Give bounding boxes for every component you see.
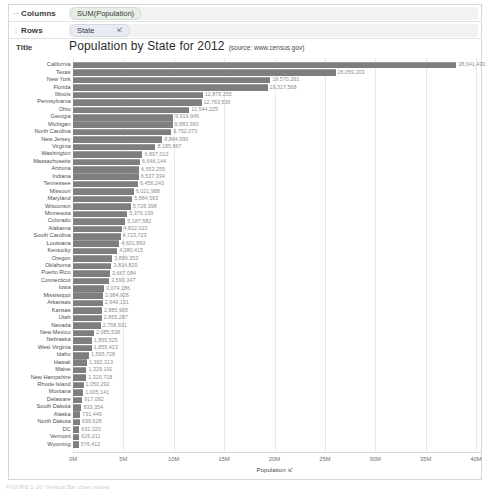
row-label-nevada[interactable]: Nevada xyxy=(9,322,73,329)
row-label-alabama[interactable]: Alabama xyxy=(9,225,73,232)
table-row[interactable]: South Dakota833,354 xyxy=(9,403,481,410)
rows-shelf-dropzone[interactable]: State ⇲ xyxy=(69,24,478,37)
title-shelf[interactable]: Title Population by State for 2012 (sour… xyxy=(9,39,481,58)
row-label-south-dakota[interactable]: South Dakota xyxy=(9,403,73,410)
table-row[interactable]: Massachusetts6,646,144 xyxy=(9,158,481,165)
row-label-minnesota[interactable]: Minnesota xyxy=(9,210,73,217)
sort-descending-icon[interactable]: ⇲ xyxy=(288,466,293,473)
row-label-alaska[interactable]: Alaska xyxy=(9,411,73,418)
row-label-maine[interactable]: Maine xyxy=(9,366,73,373)
row-label-hawaii[interactable]: Hawaii xyxy=(9,359,73,366)
table-row[interactable]: Tennessee6,456,243 xyxy=(9,180,481,187)
table-row[interactable]: California38,041,430 xyxy=(9,61,481,68)
table-row[interactable]: Maryland5,884,563 xyxy=(9,195,481,202)
row-label-iowa[interactable]: Iowa xyxy=(9,284,73,291)
row-label-wisconsin[interactable]: Wisconsin xyxy=(9,203,73,210)
table-row[interactable]: New York19,570,261 xyxy=(9,76,481,83)
row-label-california[interactable]: California xyxy=(9,61,73,68)
table-row[interactable]: Texas26,059,203 xyxy=(9,68,481,75)
row-label-illinois[interactable]: Illinois xyxy=(9,91,73,98)
table-row[interactable]: Kentucky4,380,415 xyxy=(9,247,481,254)
row-label-washington[interactable]: Washington xyxy=(9,150,73,157)
pill-state[interactable]: State ⇲ xyxy=(70,24,130,37)
table-row[interactable]: Utah2,855,287 xyxy=(9,314,481,321)
table-row[interactable]: Pennsylvania12,763,536 xyxy=(9,98,481,105)
row-label-massachusetts[interactable]: Massachusetts xyxy=(9,158,73,165)
row-label-kentucky[interactable]: Kentucky xyxy=(9,247,73,254)
row-label-new-york[interactable]: New York xyxy=(9,76,73,83)
row-label-connecticut[interactable]: Connecticut xyxy=(9,277,73,284)
pill-sum-population[interactable]: SUM(Population) xyxy=(70,7,141,20)
table-row[interactable]: Ohio11,544,225 xyxy=(9,106,481,113)
table-row[interactable]: Rhode Island1,050,292 xyxy=(9,381,481,388)
row-label-arkansas[interactable]: Arkansas xyxy=(9,299,73,306)
table-row[interactable]: Puerto Rico3,667,084 xyxy=(9,269,481,276)
table-row[interactable]: South Carolina4,723,723 xyxy=(9,232,481,239)
row-label-missouri[interactable]: Missouri xyxy=(9,188,73,195)
row-label-puerto-rico[interactable]: Puerto Rico xyxy=(9,269,73,276)
table-row[interactable]: Florida19,317,568 xyxy=(9,83,481,90)
table-row[interactable]: Idaho1,595,728 xyxy=(9,351,481,358)
table-row[interactable]: Washington6,897,012 xyxy=(9,150,481,157)
row-label-louisiana[interactable]: Louisiana xyxy=(9,240,73,247)
row-label-texas[interactable]: Texas xyxy=(9,69,73,76)
table-row[interactable]: Illinois12,875,255 xyxy=(9,91,481,98)
table-row[interactable]: Missouri6,021,988 xyxy=(9,187,481,194)
table-row[interactable]: New Jersey8,864,590 xyxy=(9,135,481,142)
row-label-idaho[interactable]: Idaho xyxy=(9,351,73,358)
row-label-florida[interactable]: Florida xyxy=(9,84,73,91)
row-label-montana[interactable]: Montana xyxy=(9,388,73,395)
table-row[interactable]: Maine1,329,192 xyxy=(9,366,481,373)
table-row[interactable]: Vermont626,011 xyxy=(9,433,481,440)
table-row[interactable]: New Hampshire1,320,718 xyxy=(9,373,481,380)
table-row[interactable]: Arizona6,553,255 xyxy=(9,165,481,172)
table-row[interactable]: Colorado5,187,582 xyxy=(9,217,481,224)
row-label-wyoming[interactable]: Wyoming xyxy=(9,441,73,448)
table-row[interactable]: Virginia8,185,867 xyxy=(9,143,481,150)
bar-mark[interactable] xyxy=(73,441,79,448)
row-label-colorado[interactable]: Colorado xyxy=(9,217,73,224)
table-row[interactable]: New Mexico2,085,538 xyxy=(9,329,481,336)
table-row[interactable]: Alaska731,449 xyxy=(9,411,481,418)
row-label-indiana[interactable]: Indiana xyxy=(9,173,73,180)
row-label-south-carolina[interactable]: South Carolina xyxy=(9,232,73,239)
row-label-maryland[interactable]: Maryland xyxy=(9,195,73,202)
table-row[interactable]: North Dakota699,628 xyxy=(9,418,481,425)
columns-shelf-dropzone[interactable]: SUM(Population) xyxy=(69,7,478,20)
table-row[interactable]: West Virginia1,855,413 xyxy=(9,344,481,351)
table-row[interactable]: Minnesota5,379,139 xyxy=(9,210,481,217)
columns-shelf[interactable]: ⋯ Columns SUM(Population) xyxy=(9,5,481,22)
table-row[interactable]: Kansas2,885,905 xyxy=(9,306,481,313)
row-label-dc[interactable]: DC xyxy=(9,426,73,433)
table-row[interactable]: Nebraska1,855,525 xyxy=(9,336,481,343)
table-row[interactable]: Georgia9,919,945 xyxy=(9,113,481,120)
row-label-new-hampshire[interactable]: New Hampshire xyxy=(9,374,73,381)
sort-descending-icon[interactable]: ⇲ xyxy=(117,26,123,34)
table-row[interactable]: Alabama4,822,023 xyxy=(9,225,481,232)
table-row[interactable]: Oklahoma3,814,820 xyxy=(9,262,481,269)
table-row[interactable]: Iowa3,074,186 xyxy=(9,284,481,291)
table-row[interactable]: Michigan9,883,360 xyxy=(9,121,481,128)
row-label-nebraska[interactable]: Nebraska xyxy=(9,336,73,343)
table-row[interactable]: Indiana6,537,334 xyxy=(9,173,481,180)
row-label-virginia[interactable]: Virginia xyxy=(9,143,73,150)
row-label-north-dakota[interactable]: North Dakota xyxy=(9,418,73,425)
x-axis-title[interactable]: Population⇲ xyxy=(256,466,292,473)
table-row[interactable]: Wisconsin5,726,398 xyxy=(9,202,481,209)
row-label-utah[interactable]: Utah xyxy=(9,314,73,321)
row-label-vermont[interactable]: Vermont xyxy=(9,433,73,440)
row-label-oregon[interactable]: Oregon xyxy=(9,255,73,262)
row-label-north-carolina[interactable]: North Carolina xyxy=(9,128,73,135)
table-row[interactable]: Wyoming576,412 xyxy=(9,440,481,447)
row-label-tennessee[interactable]: Tennessee xyxy=(9,180,73,187)
row-label-delaware[interactable]: Delaware xyxy=(9,396,73,403)
row-label-kansas[interactable]: Kansas xyxy=(9,307,73,314)
row-label-new-mexico[interactable]: New Mexico xyxy=(9,329,73,336)
table-row[interactable]: Montana1,005,141 xyxy=(9,388,481,395)
table-row[interactable]: Oregon3,899,353 xyxy=(9,254,481,261)
table-row[interactable]: Arkansas2,949,131 xyxy=(9,299,481,306)
row-label-oklahoma[interactable]: Oklahoma xyxy=(9,262,73,269)
table-row[interactable]: North Carolina9,752,073 xyxy=(9,128,481,135)
row-label-michigan[interactable]: Michigan xyxy=(9,121,73,128)
table-row[interactable]: Hawaii1,392,313 xyxy=(9,359,481,366)
